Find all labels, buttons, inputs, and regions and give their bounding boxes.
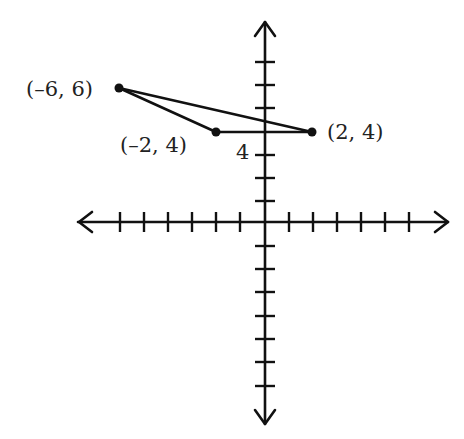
point-a-label: (–6, 6) bbox=[26, 79, 93, 100]
point-c bbox=[308, 128, 317, 137]
point-b-label: (–2, 4) bbox=[120, 135, 187, 156]
point-a bbox=[115, 84, 124, 93]
point-b bbox=[212, 128, 221, 137]
segment-a-c bbox=[119, 88, 312, 132]
segment-a-b bbox=[119, 88, 216, 132]
point-c-label: (2, 4) bbox=[327, 122, 383, 143]
triangle bbox=[119, 88, 312, 132]
coordinate-plane bbox=[0, 0, 464, 439]
height-annotation: 4 bbox=[236, 142, 249, 163]
